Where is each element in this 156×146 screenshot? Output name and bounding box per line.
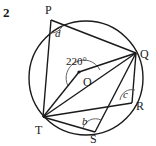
label-O: O xyxy=(83,75,92,89)
center-point xyxy=(77,70,80,73)
label-T: T xyxy=(35,123,43,137)
label-P: P xyxy=(45,3,52,17)
label-Q: Q xyxy=(140,47,149,61)
question-number: 2 xyxy=(3,5,10,20)
chord-PT xyxy=(43,20,51,117)
angle-label-b: b xyxy=(82,115,88,127)
radius-OT xyxy=(43,72,79,117)
chord-PQ xyxy=(51,20,136,53)
angle-label-220: 220° xyxy=(66,55,87,67)
angle-label-d: d xyxy=(55,27,61,39)
label-R: R xyxy=(136,99,144,113)
label-S: S xyxy=(90,132,97,146)
angle-label-c: c xyxy=(123,88,128,100)
geometry-diagram: 2 P Q R S T O 220° d c b xyxy=(0,0,156,146)
chord-TR xyxy=(43,103,132,117)
